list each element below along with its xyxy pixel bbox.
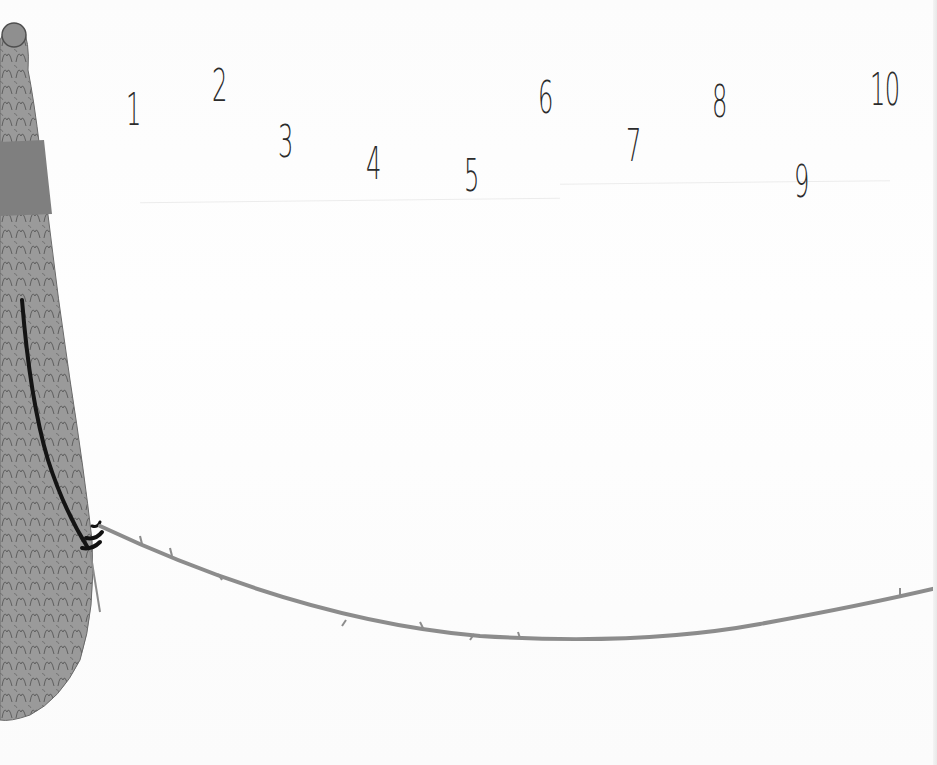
number-7: 7 <box>626 124 641 168</box>
number-2: 2 <box>212 64 227 108</box>
number-6: 6 <box>538 76 553 120</box>
shaggy-creature <box>0 23 102 720</box>
page-edge <box>933 0 937 765</box>
number-8: 8 <box>712 80 727 124</box>
book-page: 1 2 3 4 5 6 7 8 9 10 <box>0 0 937 765</box>
number-10: 10 <box>870 68 900 112</box>
number-3: 3 <box>278 120 293 164</box>
number-4: 4 <box>366 142 381 186</box>
number-9: 9 <box>794 160 809 204</box>
number-5: 5 <box>464 154 479 198</box>
thorny-branch <box>100 526 937 640</box>
number-1: 1 <box>126 88 141 132</box>
